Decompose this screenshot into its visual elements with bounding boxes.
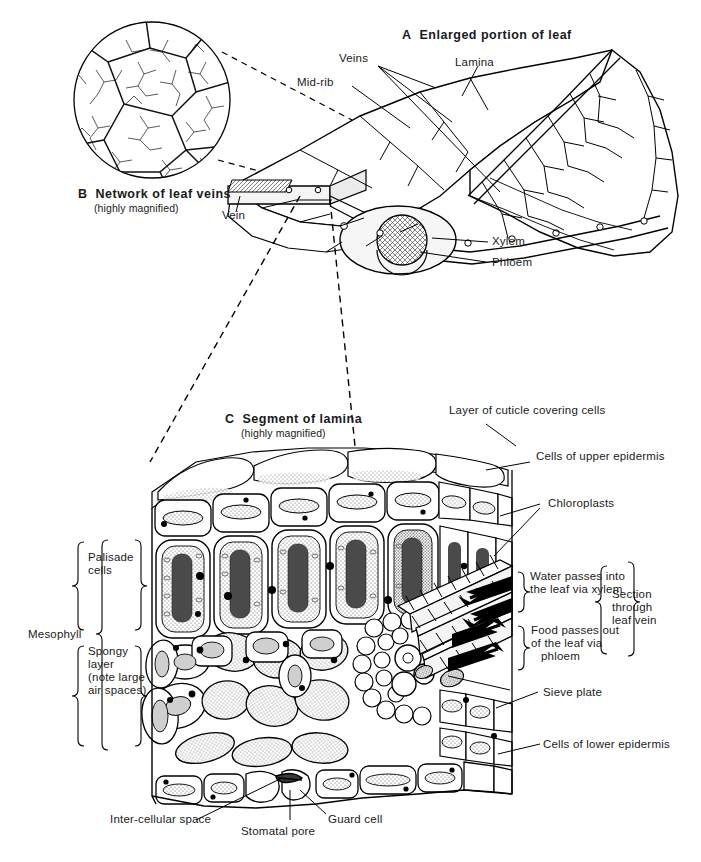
panel-b-letter: B	[78, 187, 88, 201]
label-lower-epidermis: Cells of lower epidermis	[543, 738, 670, 751]
label-section-line2: through	[612, 601, 652, 614]
label-xylem: Xylem	[492, 235, 525, 248]
panel-b-subtitle: (highly magnified)	[94, 202, 179, 215]
label-stomatal-pore: Stomatal pore	[241, 825, 315, 838]
label-food-passes-line3: phloem	[541, 650, 580, 663]
panel-c-title: Segment of lamina	[242, 412, 362, 426]
label-veins: Veins	[339, 52, 368, 65]
label-chloroplasts: Chloroplasts	[548, 497, 614, 510]
label-guard-cell: Guard cell	[328, 813, 382, 826]
label-spongy-line1: Spongy	[88, 645, 128, 658]
label-spongy-line3: (note large	[88, 671, 145, 684]
leaf-enlarged-portion	[228, 50, 678, 277]
panel-a-heading: A Enlarged portion of leaf	[402, 29, 572, 42]
leaf-structure-diagram: A Enlarged portion of leaf Veins Mid-rib…	[0, 0, 701, 862]
label-water-passes-line1: Water passes into	[530, 570, 625, 583]
label-spongy-line4: air spaces)	[88, 684, 146, 697]
label-palisade-line2: cells	[88, 564, 112, 577]
label-spongy-line2: layer	[88, 658, 114, 671]
label-lamina: Lamina	[455, 56, 494, 69]
label-mid-rib: Mid-rib	[297, 76, 334, 89]
label-phloem: Phloem	[492, 256, 532, 269]
panel-c-heading: C Segment of lamina	[225, 413, 362, 426]
label-sieve-plate: Sieve plate	[543, 686, 602, 699]
panel-b-title: Network of leaf veins	[95, 187, 231, 201]
lamina-segment-block	[139, 448, 512, 808]
panel-c-letter: C	[225, 412, 235, 426]
label-food-passes-line1: Food passes out	[531, 624, 619, 637]
label-vein: Vein	[222, 209, 245, 222]
label-food-passes-line2: of the leaf via	[531, 637, 602, 650]
panel-c-subtitle: (highly magnified)	[241, 427, 326, 440]
diagram-canvas	[0, 0, 701, 862]
label-mesophyll: Mesophyll	[28, 628, 82, 641]
label-cuticle: Layer of cuticle covering cells	[449, 404, 605, 417]
label-section-line1: Section	[612, 588, 652, 601]
label-section-line3: leaf vein	[612, 614, 657, 627]
vein-network-circle	[34, 20, 236, 200]
label-intercellular-space: Inter-cellular space	[110, 813, 211, 826]
panel-a-title: Enlarged portion of leaf	[419, 28, 571, 42]
label-palisade-line1: Palisade	[88, 551, 134, 564]
label-water-passes-line2: the leaf via xylem	[530, 583, 622, 596]
panel-b-heading: B Network of leaf veins	[78, 188, 231, 201]
panel-a-letter: A	[402, 28, 412, 42]
label-upper-epidermis: Cells of upper epidermis	[536, 450, 665, 463]
